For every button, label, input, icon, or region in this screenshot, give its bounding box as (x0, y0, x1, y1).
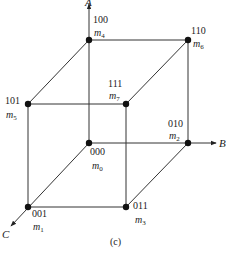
edge-110-111 (126, 40, 188, 104)
vertex-100 (86, 37, 92, 43)
axis-c-line (11, 143, 89, 226)
vertex-101-code: 101 (5, 96, 20, 106)
vertex-000-minterm: m0 (92, 161, 103, 174)
vertex-110-code: 110 (191, 26, 206, 36)
cube-diagram: A B C 100 m4 110 m6 101 m5 111 m7 000 m0… (0, 0, 227, 255)
vertex-010-minterm: m2 (169, 131, 180, 144)
figure-caption: (c) (110, 237, 121, 247)
vertex-100-minterm: m4 (94, 28, 105, 41)
vertex-100-code: 100 (93, 15, 108, 25)
edge-011-010 (126, 143, 188, 207)
edge-100-101 (28, 40, 89, 104)
vertex-011-minterm: m3 (135, 215, 146, 228)
vertex-111 (123, 101, 129, 107)
vertex-011-code: 011 (133, 201, 148, 211)
vertex-010 (185, 140, 191, 146)
vertex-110-minterm: m6 (193, 39, 204, 52)
vertex-101 (25, 101, 31, 107)
vertex-010-code: 010 (168, 119, 183, 129)
vertex-001-code: 001 (32, 209, 47, 219)
vertex-110 (185, 37, 191, 43)
vertex-001 (25, 204, 31, 210)
axis-c-label: C (2, 229, 9, 240)
vertex-111-code: 111 (108, 79, 122, 89)
axis-b-label: B (219, 138, 226, 149)
vertex-001-minterm: m1 (33, 222, 44, 235)
vertex-111-minterm: m7 (109, 91, 120, 104)
vertex-101-minterm: m5 (6, 110, 17, 123)
vertex-011 (123, 204, 129, 210)
axis-a-label: A (85, 0, 92, 8)
vertex-000-code: 000 (90, 147, 105, 157)
